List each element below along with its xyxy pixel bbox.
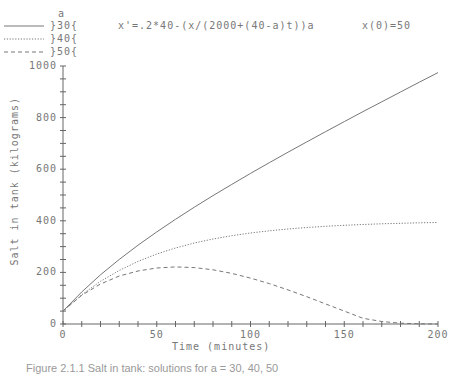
x-tick-label: 100 [240,329,261,340]
y-tick-label: 600 [36,163,57,174]
y-tick-label: 400 [36,215,57,226]
curve-a-50 [63,267,438,324]
legend-label-40: }40{ [50,33,78,44]
y-tick-label: 0 [50,318,57,329]
y-tick-label: 1000 [29,60,57,71]
curve-a-30 [63,73,438,312]
figure-caption: Figure 2.1.1 Salt in tank: solutions for… [26,362,278,374]
x-tick-label: 150 [334,329,355,340]
legend-header: a [58,8,65,19]
legend-label-30: }30{ [50,20,78,31]
axes [60,66,438,327]
initial-condition-label: x(0)=50 [362,20,411,31]
equation-label: x'=.2*40-(x/(2000+(40-a)t))a [118,20,315,31]
curve-a-40 [63,223,438,312]
legend-label-50: }50{ [50,46,78,57]
x-tick-label: 200 [428,329,449,340]
x-axis-title: Time (minutes) [172,341,270,352]
legend-lines [4,26,44,52]
x-tick-label: 50 [150,329,164,340]
x-tick-label: 0 [60,329,67,340]
y-tick-label: 200 [36,266,57,277]
curves [63,73,438,324]
y-axis-title: Salt in tank (kilograms) [9,126,20,266]
y-tick-label: 800 [36,112,57,123]
